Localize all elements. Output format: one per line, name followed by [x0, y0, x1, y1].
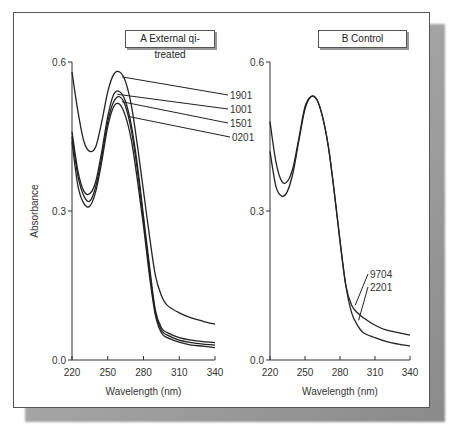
- series-leader-line: [122, 102, 228, 123]
- series-label-1901: 1901: [230, 90, 253, 101]
- x-tick-label: 250: [297, 367, 314, 378]
- x-tick-label: 310: [171, 367, 188, 378]
- series-label-1001: 1001: [230, 104, 253, 115]
- series-label-1501: 1501: [230, 118, 253, 129]
- x-tick-label: 310: [367, 367, 384, 378]
- series-leader-line: [122, 77, 228, 95]
- x-tick-label: 340: [402, 367, 419, 378]
- y-tick-label: 0.6: [52, 57, 66, 68]
- series-label-2201: 2201: [370, 282, 393, 293]
- y-tick-label: 0.6: [250, 57, 264, 68]
- x-tick-label: 220: [64, 367, 81, 378]
- y-axis-label: Absorbance: [29, 184, 40, 238]
- series-line-0201: [72, 103, 215, 347]
- x-tick-label: 250: [99, 367, 116, 378]
- x-tick-label: 220: [262, 367, 279, 378]
- series-line-1501: [72, 97, 215, 346]
- y-tick-label: 0.3: [250, 206, 264, 217]
- x-tick-label: 340: [207, 367, 224, 378]
- x-axis-label: Wavelength (nm): [302, 386, 378, 397]
- chart-canvas: 0.00.30.6220250280310340Wavelength (nm)A…: [0, 0, 455, 433]
- y-tick-label: 0.0: [52, 355, 66, 366]
- x-tick-label: 280: [135, 367, 152, 378]
- y-tick-label: 0.3: [52, 206, 66, 217]
- y-tick-label: 0.0: [250, 355, 264, 366]
- series-line-9704: [270, 96, 410, 335]
- series-line-2201: [270, 96, 410, 346]
- x-axis-label: Wavelength (nm): [106, 386, 182, 397]
- series-leader-line: [117, 94, 228, 109]
- x-tick-label: 280: [332, 367, 349, 378]
- series-leader-line: [355, 274, 368, 305]
- series-label-0201: 0201: [232, 132, 255, 143]
- series-label-9704: 9704: [370, 269, 393, 280]
- series-leader-line: [359, 287, 368, 320]
- series-leader-line: [129, 117, 230, 137]
